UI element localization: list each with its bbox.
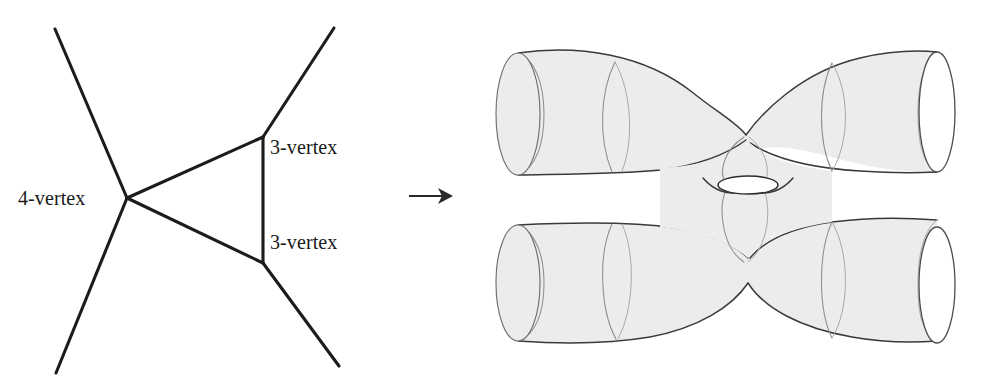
external-leg-upper-left <box>55 29 127 198</box>
handle-hole <box>718 176 778 194</box>
internal-edge-4v-to-3v-bottom <box>127 198 263 263</box>
surface-panel <box>460 0 985 389</box>
opening-lower-left <box>496 225 540 341</box>
opening-upper-right <box>919 52 955 172</box>
external-leg-upper-right <box>263 28 334 137</box>
external-leg-lower-right <box>263 263 339 366</box>
label-3-vertex-bottom: 3-vertex <box>270 232 337 252</box>
external-leg-lower-left <box>56 198 127 373</box>
figure-canvas: 4-vertex 3-vertex 3-vertex <box>0 0 985 389</box>
internal-edge-4v-to-3v-top <box>127 137 263 198</box>
opening-upper-left <box>496 53 540 175</box>
graph-panel: 4-vertex 3-vertex 3-vertex <box>0 0 400 389</box>
opening-lower-right <box>919 227 955 343</box>
right-arrow-icon <box>409 188 453 204</box>
arrow-svg <box>390 0 470 389</box>
label-4-vertex: 4-vertex <box>18 188 85 208</box>
surface-svg <box>460 0 985 389</box>
label-3-vertex-top: 3-vertex <box>270 137 337 157</box>
arrow-panel <box>390 0 470 389</box>
